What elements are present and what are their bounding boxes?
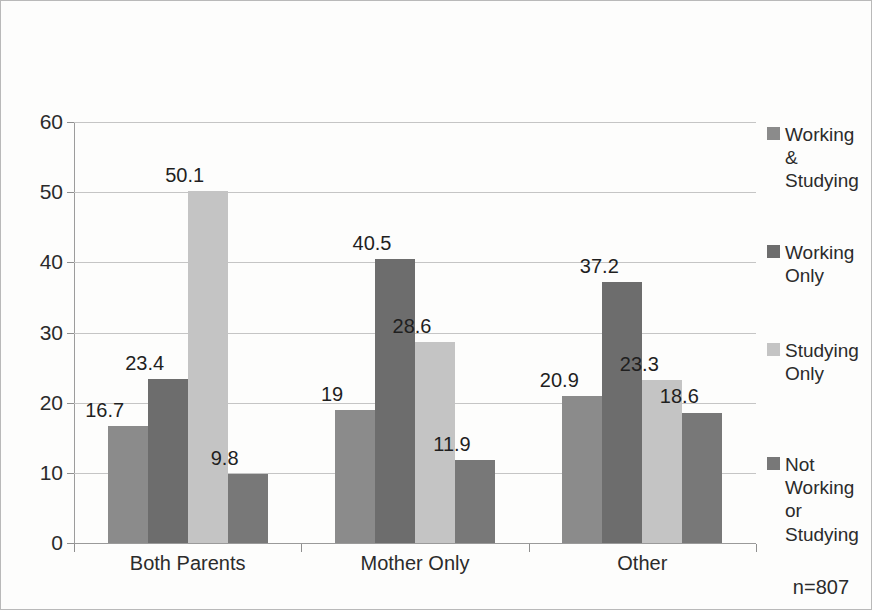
legend-item-label: Working Only (785, 241, 854, 287)
legend-item-label: Not Working or Studying (785, 453, 859, 546)
legend-item-studying-only[interactable]: Studying Only (767, 339, 859, 385)
y-axis-tick-label: 40 (17, 251, 63, 272)
bar (335, 410, 375, 543)
bar-value-label: 18.6 (639, 386, 719, 406)
bar (562, 396, 602, 543)
legend-item-label: Working & Studying (785, 123, 859, 193)
y-axis-tick-label: 20 (17, 392, 63, 413)
bar-value-label: 9.8 (185, 448, 265, 468)
legend-item-working-studying[interactable]: Working & Studying (767, 123, 859, 193)
x-tick (756, 544, 757, 552)
bar-value-label: 28.6 (372, 316, 452, 336)
bar (228, 474, 268, 543)
x-axis-line (74, 543, 756, 544)
y-tick-50 (67, 192, 74, 193)
y-axis-tick-label: 0 (17, 532, 63, 553)
legend-swatch-icon (767, 343, 780, 356)
chart-figure: 0102030405060 Both ParentsMother OnlyOth… (0, 0, 872, 610)
bar (375, 259, 415, 543)
y-tick-10 (67, 473, 74, 474)
x-axis-category-label: Mother Only (301, 552, 528, 574)
bar (148, 379, 188, 543)
y-axis-labels: 0102030405060 (1, 1, 63, 610)
bar (188, 191, 228, 543)
bar-value-label: 50.1 (145, 165, 225, 185)
legend-item-label: Studying Only (785, 339, 859, 385)
bar-value-label: 23.3 (599, 354, 679, 374)
bar-value-label: 16.7 (65, 400, 145, 420)
x-axis-category-label: Other (529, 552, 756, 574)
bar-value-label: 23.4 (105, 353, 185, 373)
x-tick (529, 544, 530, 552)
bar-value-label: 37.2 (559, 256, 639, 276)
x-tick-origin (74, 544, 75, 552)
y-axis-tick-label: 60 (17, 111, 63, 132)
sample-size-annotation: n=807 (793, 577, 849, 597)
bar-group (562, 122, 722, 543)
x-axis-category-label: Both Parents (74, 552, 301, 574)
bar (455, 460, 495, 543)
y-tick-0 (67, 543, 74, 544)
y-axis-tick-label: 50 (17, 181, 63, 202)
legend-item-not-working-or-studying[interactable]: Not Working or Studying (767, 453, 859, 546)
legend-item-working-only[interactable]: Working Only (767, 241, 854, 287)
legend-swatch-icon (767, 245, 780, 258)
y-axis-tick-label: 30 (17, 322, 63, 343)
y-tick-60 (67, 122, 74, 123)
y-tick-40 (67, 262, 74, 263)
y-axis-tick-label: 10 (17, 462, 63, 483)
y-tick-30 (67, 333, 74, 334)
bar-value-label: 20.9 (519, 370, 599, 390)
bar-value-label: 19 (292, 384, 372, 404)
x-tick (301, 544, 302, 552)
bar-value-label: 40.5 (332, 233, 412, 253)
bar (602, 282, 642, 543)
bar (682, 413, 722, 544)
bar (108, 426, 148, 543)
legend-swatch-icon (767, 457, 780, 470)
legend-swatch-icon (767, 127, 780, 140)
bar-value-label: 11.9 (412, 434, 492, 454)
